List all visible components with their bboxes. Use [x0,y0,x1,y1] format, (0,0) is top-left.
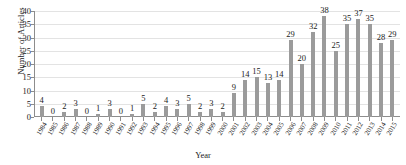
x-label-slot: 2001 [228,121,239,147]
bar-slot: 0 [115,11,126,117]
bar-value-label: 5 [187,93,191,103]
x-label-slot: 2002 [240,121,251,147]
bar-value-label: 20 [298,53,307,63]
bar-value-label: 13 [264,72,273,82]
bar [379,43,383,117]
bar-slot: 29 [387,11,398,117]
bar-value-label: 32 [309,21,318,31]
bar-slot: 4 [160,11,171,117]
bar [255,77,259,117]
bar-value-label: 29 [286,29,295,39]
bar-slot: 32 [308,11,319,117]
bar-slot: 35 [364,11,375,117]
bar-value-label: 5 [141,93,145,103]
x-label-slot: 2015 [387,121,398,147]
bar-slot: 20 [296,11,307,117]
x-label-slot: 1994 [149,121,160,147]
bar-slot: 1 [93,11,104,117]
x-label-slot: 2000 [217,121,228,147]
x-label-slot: 2007 [296,121,307,147]
x-label-slot: 1988 [81,121,92,147]
bar [356,19,360,117]
bar-value-label: 4 [40,95,44,105]
y-tick-label: 0 [27,112,31,122]
bar-value-label: 0 [85,106,89,116]
bar-slot: 14 [240,11,251,117]
bar-slot: 38 [319,11,330,117]
bar [334,51,338,117]
bar-slot: 29 [285,11,296,117]
bar-value-label: 2 [198,101,202,111]
bar-slot: 3 [70,11,81,117]
x-label-slot: 2005 [274,121,285,147]
x-label-slot: 1999 [206,121,217,147]
y-tick-label: 25 [23,46,32,56]
bar [164,106,168,117]
bar [300,64,304,117]
bar-slot: 4 [36,11,47,117]
bar-slot: 9 [228,11,239,117]
x-label-slot: 2008 [308,121,319,147]
x-label-slot: 2011 [341,121,352,147]
bar-slot: 2 [149,11,160,117]
bar [289,40,293,117]
bar-slot: 0 [81,11,92,117]
bar-value-label: 37 [354,8,363,18]
x-label-slot: 1989 [93,121,104,147]
x-label-slot: 1992 [127,121,138,147]
bar-slot: 3 [104,11,115,117]
bar-value-label: 2 [62,101,66,111]
bar-slot: 2 [59,11,70,117]
x-label-slot: 1996 [172,121,183,147]
bar-value-label: 14 [275,69,284,79]
bar-value-label: 4 [164,95,168,105]
x-label-slot: 2010 [330,121,341,147]
bar-value-label: 25 [332,40,341,50]
x-label-slot: 2012 [353,121,364,147]
x-label-slot: 1995 [160,121,171,147]
x-label-slot: 1997 [183,121,194,147]
bar-value-label: 0 [51,106,55,116]
x-label-slot: 2013 [364,121,375,147]
bar [141,104,145,117]
bar-slot: 25 [330,11,341,117]
bar-value-label: 2 [153,101,157,111]
bar [345,24,349,117]
bar-value-label: 9 [232,82,236,92]
bar-value-label: 3 [175,98,179,108]
bar-slot: 3 [206,11,217,117]
bar [311,32,315,117]
y-tick-label: 30 [23,33,32,43]
bar-slot: 3 [172,11,183,117]
bar [74,109,78,117]
bar [232,93,236,117]
x-tick-label: 2015 [385,121,399,137]
bar [322,16,326,117]
bar-slot: 0 [47,11,58,117]
bar-slot: 14 [274,11,285,117]
x-label-slot: 1998 [194,121,205,147]
bar-slot: 13 [262,11,273,117]
bar [209,109,213,117]
bar [175,109,179,117]
bar-slot: 5 [138,11,149,117]
bar-value-label: 3 [209,98,213,108]
bar-slot: 2 [217,11,228,117]
bar-value-label: 1 [96,103,100,113]
bar [390,40,394,117]
y-tick-label: 5 [27,99,31,109]
x-label-slot: 1986 [59,121,70,147]
bar [187,104,191,117]
plot-area: 0510152025303540 40230130152435232914151… [34,11,400,117]
x-label-slot: 1993 [138,121,149,147]
x-label-slot: 2006 [285,121,296,147]
y-tick-label: 20 [23,59,32,69]
x-label-slot: 1991 [115,121,126,147]
bar-value-label: 35 [343,13,352,23]
bar-value-label: 0 [119,106,123,116]
x-label-slot: 2003 [251,121,262,147]
bar-value-label: 35 [365,13,374,23]
x-label-slot: 1984 [36,121,47,147]
y-tick-label: 35 [23,19,32,29]
x-axis-title: Year [0,150,406,160]
